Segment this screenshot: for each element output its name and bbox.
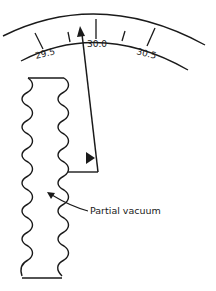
partial-vacuum-label: Partial vacuum — [90, 205, 161, 216]
barometer-diagram: 29.5 30.0 30.5 Partial vacuum — [0, 0, 216, 291]
tick-label-29-5: 29.5 — [34, 46, 56, 61]
pivot-marker-icon — [86, 152, 95, 164]
pointer-arrowhead-icon — [77, 26, 85, 37]
label-leader-line — [52, 195, 88, 211]
tick-label-30-0: 30.0 — [87, 39, 107, 49]
tick-minor-2 — [122, 31, 125, 41]
tick-minor-1 — [68, 32, 70, 42]
bellows-left-wall — [21, 78, 33, 276]
tick-30-5 — [147, 28, 155, 46]
tick-label-30-5: 30.5 — [136, 46, 158, 61]
bellows-right-wall — [58, 78, 69, 276]
tick-29-5 — [35, 33, 43, 49]
